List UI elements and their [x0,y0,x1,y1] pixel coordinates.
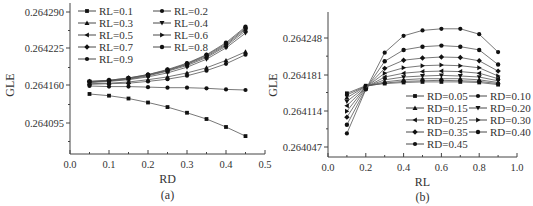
legend-label: RD=0.30 [490,114,531,126]
legend-label: RD=0.20 [490,102,531,114]
legend-item: RD=0.40 [469,126,531,138]
x-tick-label: 0.3 [180,159,193,170]
y-axis-label: GLE [266,73,280,96]
legend-label: RD=0.05 [427,90,468,102]
legend-label: RD=0.10 [490,90,531,102]
legend-label: RL=0.7 [99,41,134,53]
legend: RL=0.1RL=0.2RL=0.3RL=0.4RL=0.5RL=0.6RL=0… [78,5,209,65]
legend-label: RD=0.15 [427,102,468,114]
legend-item: RL=0.3 [78,17,134,29]
y-tick-label: 0.264114 [283,106,323,117]
legend-item: RL=0.7 [78,41,134,53]
legend-item: RD=0.45 [406,138,468,150]
y-tick-label: 0.264248 [283,33,322,44]
legend-label: RL=0.5 [99,29,134,41]
y-tick-label: 0.264225 [25,43,64,54]
x-tick-label: 1.0 [510,162,523,173]
legend-item: RD=0.15 [406,102,468,114]
x-tick-label: 0.4 [219,159,233,170]
y-tick-label: 0.264047 [283,142,322,153]
legend-item: RD=0.05 [406,90,468,102]
y-tick-label: 0.264290 [25,7,64,18]
legend-item: RL=0.8 [153,41,209,53]
x-tick-label: 0.1 [102,159,115,170]
series-rl-0-2 [87,84,247,92]
x-axis-label: RD [159,172,176,186]
x-tick-label: 0.2 [359,162,372,173]
legend-item: RD=0.20 [469,102,531,114]
x-tick-label: 0.5 [258,159,271,170]
chart-panel-b: 0.00.20.40.60.81.00.2640470.2641140.2641… [266,12,531,204]
y-tick-label: 0.264181 [283,70,322,81]
legend-item: RL=0.2 [153,5,208,17]
x-tick-label: 0.0 [63,159,76,170]
chart-panel-a: 0.00.10.20.30.40.50.2640950.2641600.2642… [3,3,272,202]
legend-label: RD=0.40 [490,126,531,138]
legend-label: RD=0.25 [427,114,468,126]
figure: 0.00.10.20.30.40.50.2640950.2641600.2642… [0,0,533,206]
legend-item: RD=0.30 [469,114,531,126]
x-axis-label: RL [415,175,430,189]
legend-item: RD=0.10 [469,90,531,102]
legend-item: RL=0.4 [153,17,209,29]
y-tick-label: 0.264160 [25,80,64,91]
x-tick-label: 0.2 [141,159,154,170]
x-tick-label: 0.8 [473,162,486,173]
legend-label: RL=0.2 [174,5,208,17]
panel-label: (a) [161,188,174,202]
y-axis-label: GLE [3,73,17,96]
x-tick-label: 0.0 [321,162,334,173]
panel-label: (b) [416,190,430,204]
series-rl-0-1 [88,92,248,138]
legend-label: RL=0.1 [99,5,133,17]
legend-label: RD=0.35 [427,126,468,138]
legend-item: RL=0.1 [78,5,133,17]
legend-item: RL=0.9 [78,53,134,65]
legend-label: RD=0.45 [427,138,468,150]
legend-item: RL=0.6 [153,29,209,41]
legend-label: RL=0.6 [174,29,209,41]
x-tick-label: 0.4 [397,162,411,173]
legend: RD=0.05RD=0.10RD=0.15RD=0.20RD=0.25RD=0.… [406,90,531,150]
legend-label: RL=0.9 [99,53,134,65]
y-tick-label: 0.264095 [25,118,64,129]
x-tick-label: 0.6 [435,162,448,173]
legend-label: RL=0.4 [174,17,209,29]
legend-item: RD=0.35 [406,126,468,138]
legend-item: RD=0.25 [406,114,468,126]
legend-item: RL=0.5 [78,29,134,41]
legend-label: RL=0.8 [174,41,209,53]
legend-label: RL=0.3 [99,17,134,29]
